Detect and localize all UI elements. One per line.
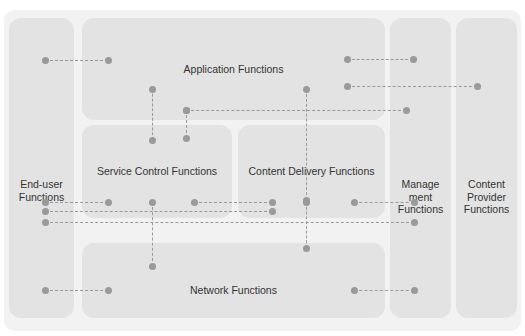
connector-line-netf-mgf	[354, 290, 414, 291]
connector-endpoint-dot	[183, 107, 190, 114]
block-content-provider-functions[interactable]: Content Provider Functions	[456, 18, 517, 318]
connector-endpoint-dot	[351, 199, 358, 206]
block-content-delivery-functions[interactable]: Content Delivery Functions	[238, 125, 385, 218]
connector-endpoint-dot	[351, 287, 358, 294]
connector-endpoint-dot	[183, 135, 190, 142]
connector-line-cdf-netf-vertical	[306, 202, 307, 248]
connector-line-cdf-mgf	[354, 202, 414, 203]
connector-endpoint-dot	[411, 219, 418, 226]
connector-endpoint-dot	[303, 199, 310, 206]
connector-line-euf-appf	[45, 60, 108, 61]
connector-endpoint-dot	[269, 208, 276, 215]
connector-line-appf-mgf-long	[186, 110, 406, 111]
content-provider-label-line2: Provider	[456, 191, 517, 204]
block-label-content-provider-functions: Content Provider Functions	[456, 178, 517, 216]
connector-endpoint-dot	[42, 199, 49, 206]
block-label-network-functions: Network Functions	[82, 284, 385, 297]
connector-endpoint-dot	[403, 107, 410, 114]
connector-endpoint-dot	[411, 199, 418, 206]
connector-endpoint-dot	[42, 57, 49, 64]
content-provider-label-line3: Functions	[456, 203, 517, 216]
end-user-label-line1: End-user	[9, 178, 74, 191]
connector-line-euf-netf	[45, 290, 108, 291]
block-label-application-functions: Application Functions	[82, 63, 385, 76]
connector-line-euf-scf	[45, 202, 108, 203]
connector-endpoint-dot	[303, 86, 310, 93]
connector-line-scf-cdf	[194, 202, 272, 203]
block-label-content-delivery-functions: Content Delivery Functions	[238, 165, 385, 178]
connector-endpoint-dot	[191, 199, 198, 206]
connector-line-scf-netf-vertical	[152, 202, 153, 266]
connector-endpoint-dot	[149, 263, 156, 270]
connector-line-euf-mgf-long	[45, 222, 414, 223]
content-provider-label-line1: Content	[456, 178, 517, 191]
connector-endpoint-dot	[42, 219, 49, 226]
block-label-end-user-functions: End-user Functions	[9, 178, 74, 203]
connector-endpoint-dot	[269, 199, 276, 206]
connector-endpoint-dot	[344, 56, 351, 63]
connector-endpoint-dot	[149, 86, 156, 93]
connector-line-appf-cdf-vertical	[306, 89, 307, 200]
connector-endpoint-dot	[344, 83, 351, 90]
connector-endpoint-dot	[411, 287, 418, 294]
connector-endpoint-dot	[105, 57, 112, 64]
connector-line-scf-branch-vertical	[186, 110, 187, 138]
connector-line-appf-scf-vertical	[152, 89, 153, 140]
block-label-management-functions: Manage ment Functions	[390, 178, 451, 216]
block-application-functions[interactable]: Application Functions	[82, 18, 385, 120]
connector-endpoint-dot	[42, 208, 49, 215]
connector-endpoint-dot	[303, 245, 310, 252]
management-label-line1: Manage	[390, 178, 451, 191]
connector-endpoint-dot	[149, 137, 156, 144]
block-end-user-functions[interactable]: End-user Functions	[9, 18, 74, 318]
diagram-canvas: End-user Functions Application Functions…	[0, 0, 525, 336]
connector-endpoint-dot	[149, 199, 156, 206]
connector-line-appf-cpf	[347, 86, 477, 87]
block-network-functions[interactable]: Network Functions	[82, 243, 385, 318]
connector-line-euf-cdf-long	[45, 211, 272, 212]
connector-endpoint-dot	[474, 83, 481, 90]
block-management-functions[interactable]: Manage ment Functions	[390, 18, 451, 318]
connector-endpoint-dot	[105, 287, 112, 294]
connector-endpoint-dot	[42, 287, 49, 294]
connector-line-appf-mgf-upper	[347, 59, 413, 60]
block-label-service-control-functions: Service Control Functions	[82, 165, 232, 178]
management-label-line3: Functions	[390, 203, 451, 216]
connector-endpoint-dot	[105, 199, 112, 206]
connector-endpoint-dot	[410, 56, 417, 63]
